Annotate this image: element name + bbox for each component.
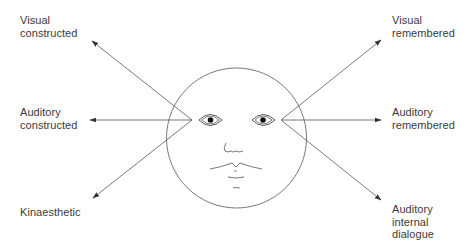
right-eye: [252, 115, 275, 126]
label-kinaesthetic: Kinaesthetic: [20, 206, 81, 219]
nose: [224, 143, 243, 152]
arrow-auditory-internal-dialogue: [281, 120, 381, 200]
chin: [233, 188, 240, 189]
arrow-visual-constructed: [92, 41, 192, 120]
face-outline: [167, 68, 307, 208]
label-auditory-constructed: Auditory constructed: [20, 106, 77, 131]
label-visual-remembered: Visual remembered: [392, 14, 455, 39]
right-pupil: [260, 117, 266, 123]
arrow-kinaesthetic: [93, 120, 192, 198]
left-eye: [199, 115, 222, 126]
lower-lip: [228, 177, 244, 178]
label-visual-constructed: Visual constructed: [20, 14, 77, 39]
mouth: [210, 163, 262, 169]
label-auditory-internal-dialogue: Auditory internal dialogue: [392, 203, 434, 241]
arrow-visual-remembered: [281, 40, 381, 120]
label-auditory-remembered: Auditory remembered: [392, 106, 455, 131]
left-pupil: [208, 117, 214, 123]
